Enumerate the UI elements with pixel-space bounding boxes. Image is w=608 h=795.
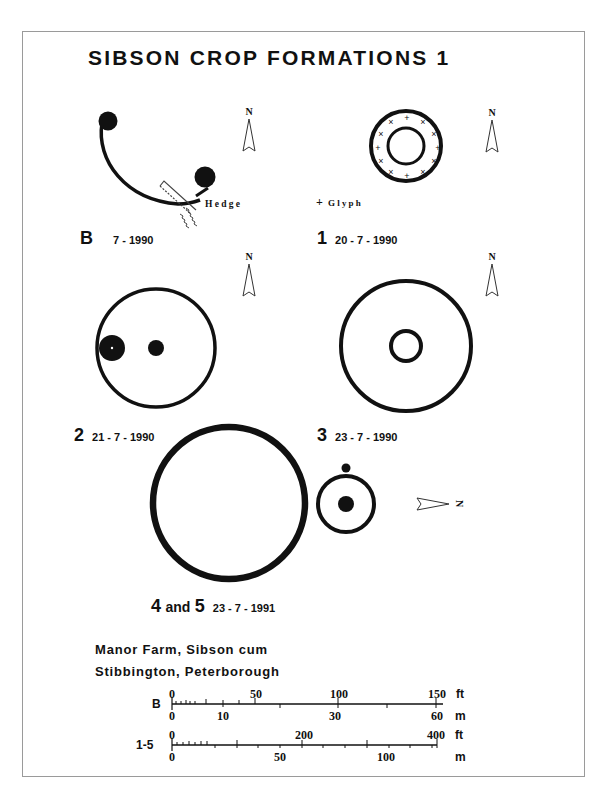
svg-text:m: m bbox=[455, 709, 466, 723]
formation-number: 2 bbox=[74, 425, 84, 445]
formation-date: 23 - 7 - 1990 bbox=[335, 431, 397, 443]
svg-text:+: + bbox=[435, 143, 440, 153]
diagram-canvas: Hedge N + × × + × × + × × + × × bbox=[0, 0, 608, 795]
svg-text:N: N bbox=[454, 500, 465, 508]
formation-b-diagram: Hedge bbox=[99, 112, 243, 229]
glyph-legend-symbol: + bbox=[316, 195, 323, 209]
svg-text:200: 200 bbox=[295, 728, 313, 742]
svg-text:×: × bbox=[378, 156, 383, 166]
svg-text:×: × bbox=[388, 117, 393, 127]
scale-1-5-label: 1-5 bbox=[136, 738, 154, 752]
location-line-2: Stibbington, Peterborough bbox=[95, 664, 280, 679]
svg-text:+: + bbox=[404, 171, 409, 181]
svg-text:0: 0 bbox=[169, 709, 175, 723]
north-arrow-icon: N bbox=[243, 251, 255, 296]
north-arrow-east-icon: N bbox=[417, 498, 465, 510]
formation-4-5-diagram bbox=[153, 427, 374, 579]
svg-text:N: N bbox=[488, 251, 496, 262]
svg-text:400: 400 bbox=[427, 728, 445, 742]
hedge-label: Hedge bbox=[205, 199, 242, 209]
formation-3-diagram bbox=[341, 281, 471, 411]
formation-number: 3 bbox=[317, 425, 327, 445]
formation-date: 7 - 1990 bbox=[113, 234, 153, 246]
formation-2-label: 221 - 7 - 1990 bbox=[74, 425, 154, 446]
north-arrow-icon: N bbox=[486, 251, 498, 296]
svg-text:30: 30 bbox=[329, 709, 341, 723]
svg-text:ft: ft bbox=[455, 728, 463, 742]
glyph-label: Glyph bbox=[328, 198, 363, 208]
formation-date: 23 - 7 - 1991 bbox=[213, 602, 275, 614]
svg-text:+: + bbox=[404, 113, 409, 123]
formation-1-diagram: + × × + × × + × × + × × + Glyph bbox=[316, 111, 441, 209]
formation-date: 21 - 7 - 1990 bbox=[92, 431, 154, 443]
formation-b-circle-right bbox=[195, 167, 216, 188]
svg-text:N: N bbox=[245, 106, 253, 117]
svg-text:+: + bbox=[375, 143, 380, 153]
svg-text:×: × bbox=[420, 167, 425, 177]
formation-3-label: 323 - 7 - 1990 bbox=[317, 425, 397, 446]
north-arrow-icon: N bbox=[243, 106, 255, 151]
svg-text:10: 10 bbox=[217, 709, 229, 723]
svg-text:ft: ft bbox=[456, 687, 464, 701]
svg-text:×: × bbox=[378, 129, 383, 139]
formation-number: B bbox=[80, 228, 93, 248]
formation-b-label: B7 - 1990 bbox=[80, 228, 153, 249]
svg-text:N: N bbox=[488, 107, 496, 118]
svg-text:0: 0 bbox=[169, 728, 175, 742]
formation-date: 20 - 7 - 1990 bbox=[335, 234, 397, 246]
formation-1-label: 120 - 7 - 1990 bbox=[317, 228, 397, 249]
svg-text:50: 50 bbox=[250, 687, 262, 701]
svg-text:N: N bbox=[245, 251, 253, 262]
svg-text:×: × bbox=[388, 167, 393, 177]
scale-bar-b: B 0 50 100 150 ft 0 bbox=[152, 687, 466, 723]
svg-text:100: 100 bbox=[377, 750, 395, 764]
formation-2-diagram bbox=[97, 289, 215, 407]
location-line-1: Manor Farm, Sibson cum bbox=[95, 642, 268, 657]
svg-text:0: 0 bbox=[169, 750, 175, 764]
formation-4-5-label: 4 and 523 - 7 - 1991 bbox=[151, 596, 275, 617]
formation-b-circle-left bbox=[99, 112, 118, 131]
north-arrow-icon: N bbox=[486, 107, 498, 152]
svg-text:150: 150 bbox=[428, 687, 446, 701]
formation-number: 1 bbox=[317, 228, 327, 248]
crop-formations-sheet: SIBSON CROP FORMATIONS 1 Hedge N bbox=[0, 0, 608, 795]
svg-text:×: × bbox=[420, 117, 425, 127]
svg-text:100: 100 bbox=[330, 687, 348, 701]
svg-text:m: m bbox=[455, 750, 466, 764]
svg-text:×: × bbox=[431, 129, 436, 139]
svg-text:50: 50 bbox=[274, 750, 286, 764]
svg-text:×: × bbox=[431, 156, 436, 166]
scale-bar-1-5: 1-5 bbox=[136, 728, 466, 764]
svg-text:60: 60 bbox=[431, 709, 443, 723]
svg-text:0: 0 bbox=[169, 687, 175, 701]
scale-b-label: B bbox=[152, 697, 161, 711]
